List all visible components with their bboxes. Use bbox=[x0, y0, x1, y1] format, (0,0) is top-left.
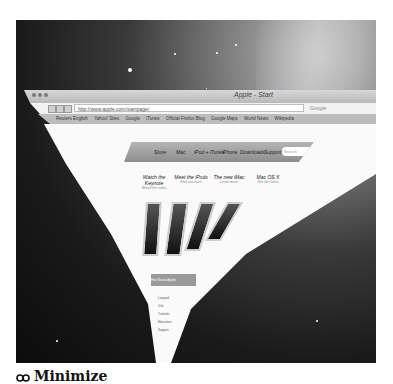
genie-effect-icon bbox=[16, 371, 30, 384]
browser-titlebar[interactable]: Apple - Start bbox=[24, 90, 376, 103]
promo-macosx[interactable]: Mac OS X Get the latest bbox=[248, 174, 288, 184]
browser-search-field[interactable]: Google bbox=[310, 104, 360, 112]
list-item[interactable]: Tutorials bbox=[158, 310, 178, 318]
nav-store[interactable]: Store bbox=[154, 149, 166, 155]
promo-image[interactable] bbox=[142, 202, 162, 256]
tab[interactable]: Apple bbox=[167, 278, 176, 282]
list-item[interactable]: Education bbox=[158, 318, 178, 326]
forward-button[interactable] bbox=[56, 105, 64, 113]
nav-ipod-itunes[interactable]: iPod + iTunes bbox=[194, 149, 224, 155]
promo-image[interactable] bbox=[184, 202, 216, 251]
nav-iphone[interactable]: iPhone bbox=[222, 149, 238, 155]
bookmark[interactable]: Google bbox=[125, 116, 140, 121]
list-item[interactable]: iLife bbox=[158, 302, 178, 310]
star bbox=[128, 68, 132, 72]
apple-logo-icon[interactable]:  bbox=[136, 149, 140, 155]
star bbox=[174, 53, 176, 55]
nav-downloads[interactable]: Downloads bbox=[240, 149, 265, 155]
bookmarks-bar: Reuters English Yahoo! Sites Google iTun… bbox=[38, 114, 376, 124]
zoom-window-icon[interactable] bbox=[44, 93, 48, 97]
browser-toolbar: http://www.apple.com/startpage/ Google bbox=[30, 103, 376, 114]
warped-web-page:  Store Mac iPod + iTunes iPhone Downloa… bbox=[16, 124, 376, 363]
caption-label: Minimize bbox=[34, 368, 107, 384]
star bbox=[316, 320, 318, 322]
star bbox=[235, 44, 237, 46]
bookmark[interactable]: Yahoo! Sites bbox=[94, 116, 119, 121]
nav-mac[interactable]: Mac bbox=[176, 149, 185, 155]
star bbox=[206, 88, 207, 89]
apple-nav-bar:  Store Mac iPod + iTunes iPhone Downloa… bbox=[124, 142, 314, 162]
back-button[interactable] bbox=[48, 105, 56, 113]
tab[interactable]: Hot News bbox=[151, 278, 166, 282]
list-item[interactable]: Leopard bbox=[158, 294, 178, 302]
window-title: Apple - Start bbox=[234, 91, 273, 98]
close-window-icon[interactable] bbox=[32, 93, 36, 97]
bookmark[interactable]: Reuters English bbox=[56, 116, 88, 121]
bookmark[interactable]: Wikipedia bbox=[274, 116, 294, 121]
genie-effect-screenshot: Apple - Start http://www.apple.com/start… bbox=[16, 20, 376, 363]
apple-search-field[interactable]: Search bbox=[282, 147, 312, 156]
list-item[interactable]: Support bbox=[158, 326, 178, 334]
promo-keynote[interactable]: Watch the Keynote Watch the video bbox=[134, 174, 174, 190]
minimize-window-icon[interactable] bbox=[38, 93, 42, 97]
bookmark[interactable]: iTunes bbox=[146, 116, 159, 121]
url-field[interactable]: http://www.apple.com/startpage/ bbox=[74, 104, 304, 112]
star bbox=[216, 52, 218, 54]
reload-button[interactable] bbox=[64, 105, 72, 113]
promo-ipods[interactable]: Meet the iPods Find out more bbox=[171, 174, 211, 184]
news-tabs: Hot News Apple bbox=[151, 274, 196, 286]
bookmark[interactable]: Official Firefox Blog bbox=[166, 116, 205, 121]
nav-support[interactable]: Support bbox=[264, 149, 282, 155]
figure-caption: Minimize bbox=[16, 368, 107, 384]
promo-imac[interactable]: The new iMac Learn more bbox=[209, 174, 249, 184]
bookmark[interactable]: World News bbox=[244, 116, 268, 121]
window-controls bbox=[32, 93, 48, 97]
star bbox=[56, 340, 58, 342]
side-list: Leopard iLife Tutorials Education Suppor… bbox=[158, 294, 178, 334]
bookmark[interactable]: Google Maps bbox=[211, 116, 238, 121]
